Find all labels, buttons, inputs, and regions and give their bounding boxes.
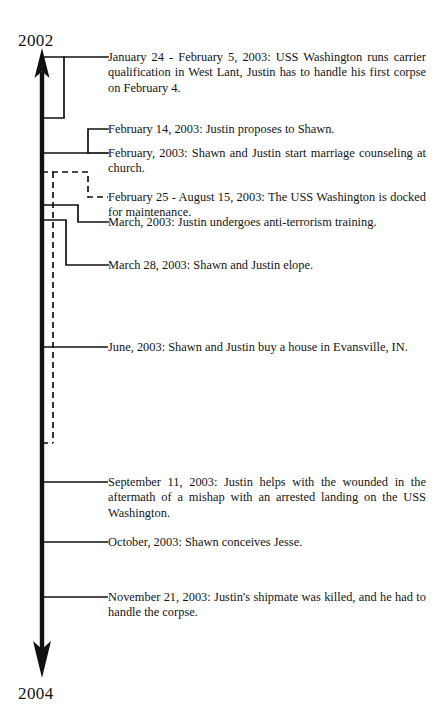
event-label-mar-28-2003-elope: March 28, 2003: Shawn and Justin elope. <box>108 258 426 273</box>
timeline-diagram: 2002 2004 January 24 - February 5, 2003:… <box>0 0 437 727</box>
axis-end-year-label: 2004 <box>18 684 54 704</box>
event-label-mar-2003-anti-terrorism: March, 2003: Justin undergoes anti-terro… <box>108 215 426 230</box>
axis-start-year-label: 2002 <box>18 31 54 51</box>
event-label-feb-2003-marriage-counseling: February, 2003: Shawn and Justin start m… <box>108 146 426 177</box>
connector-february-2003-group <box>42 129 108 153</box>
event-label-jun-2003-house: June, 2003: Shawn and Justin buy a house… <box>108 340 426 355</box>
connector-feb-aug-2003-docked <box>42 172 108 443</box>
event-label-jan-feb-2003-carrier-qual: January 24 - February 5, 2003: USS Washi… <box>108 50 426 96</box>
event-label-sep-11-2003-mishap: September 11, 2003: Justin helps with th… <box>108 475 426 521</box>
event-label-oct-2003-conceives: October, 2003: Shawn conceives Jesse. <box>108 535 426 550</box>
event-label-nov-21-2003-shipmate: November 21, 2003: Justin's shipmate was… <box>108 590 426 621</box>
connector-mar-28-2003-elope <box>42 220 108 265</box>
connector-jan-feb-2003-carrier-qual <box>42 57 108 118</box>
event-label-feb-14-2003-proposal: February 14, 2003: Justin proposes to Sh… <box>108 122 426 137</box>
